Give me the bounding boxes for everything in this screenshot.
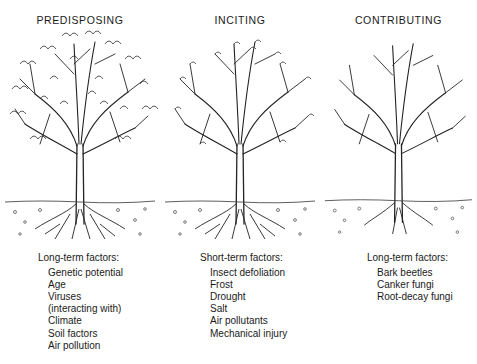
factor-item: Insect defoliation	[210, 267, 287, 279]
factor-item: Genetic potential	[48, 267, 123, 279]
factor-item: Frost	[210, 279, 287, 291]
tree-full-foliage-icon	[0, 24, 160, 244]
panel-contributing: CONTRIBUTING Long-term factors: Bark bee…	[320, 0, 477, 364]
factor-heading: Long-term factors:	[367, 252, 453, 264]
factor-item: Bark beetles	[377, 267, 453, 279]
factor-heading: Short-term factors:	[200, 252, 287, 264]
factors-list-predisposing: Long-term factors: Genetic potential Age…	[38, 252, 123, 352]
tree-sparse-foliage-icon	[160, 24, 320, 244]
factor-item: Root-decay fungi	[377, 291, 453, 303]
panel-inciting: INCITING Short-term factors: Insect defo…	[160, 0, 320, 364]
factor-item: Mechanical injury	[210, 328, 287, 340]
factor-item: Viruses	[48, 291, 123, 303]
factors-list-inciting: Short-term factors: Insect defoliation F…	[200, 252, 287, 340]
factor-item: Drought	[210, 291, 287, 303]
factor-item: Soil factors	[48, 328, 123, 340]
factor-item: Air pollution	[48, 340, 123, 352]
factor-item: Salt	[210, 303, 287, 315]
factors-list-contributing: Long-term factors: Bark beetles Canker f…	[367, 252, 453, 303]
factor-item: Canker fungi	[377, 279, 453, 291]
factor-item: Climate	[48, 315, 123, 327]
panel-predisposing: PREDISPOSING Long-term factors: Genetic …	[0, 0, 160, 364]
factor-item: Air pollutants	[210, 315, 287, 327]
factor-item: (interacting with)	[48, 303, 123, 315]
tree-bare-branches-icon	[320, 24, 477, 244]
factor-heading: Long-term factors:	[38, 252, 123, 264]
factor-item: Age	[48, 279, 123, 291]
